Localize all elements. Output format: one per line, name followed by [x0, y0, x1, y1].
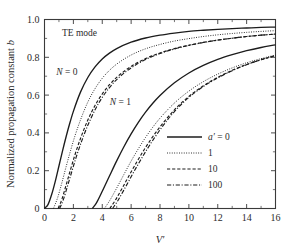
x-tick-label: 12: [213, 212, 223, 223]
x-tick-label: 14: [242, 212, 252, 223]
y-tick-label: 0.8: [27, 52, 40, 63]
chart-canvas: 0246810121416 00.20.40.60.81.0 N = 0N = …: [0, 0, 291, 249]
mode-annotations-group: N = 0N = 1: [55, 67, 131, 107]
legend-label: 1: [208, 148, 213, 158]
curve-n1-solid: [92, 45, 275, 209]
x-tick-label: 4: [100, 212, 105, 223]
y-tick-label: 0.6: [27, 90, 40, 101]
legend-label: 100: [208, 180, 223, 190]
data-curves-group: [45, 27, 276, 208]
x-tick-label: 16: [271, 212, 281, 223]
legend-label: a′ = 0: [208, 132, 230, 142]
y-tick-label: 0.2: [27, 165, 40, 176]
figure-container: 0246810121416 00.20.40.60.81.0 N = 0N = …: [0, 0, 291, 249]
y-axis-title: Normalized propagation constant b: [5, 40, 16, 188]
x-tick-label: 0: [42, 212, 47, 223]
x-tick-label: 6: [129, 212, 134, 223]
curve-n0-dashdot: [60, 34, 276, 208]
y-tick-label: 1.0: [27, 14, 40, 25]
curve-n1-dotted: [104, 55, 275, 208]
x-axis-tick-labels: 0246810121416: [42, 212, 281, 223]
x-tick-label: 10: [184, 212, 194, 223]
x-tick-label: 8: [158, 212, 163, 223]
y-tick-label: 0: [35, 203, 40, 214]
curve-n0-dotted: [53, 31, 275, 209]
mode-label: N = 0: [55, 67, 77, 77]
axis-ticks-group: [45, 20, 276, 209]
x-axis-title: V′: [156, 234, 165, 245]
curve-n0-dashed: [58, 34, 275, 208]
curve-n1-dashed: [110, 56, 276, 209]
curve-n0-solid: [45, 27, 276, 208]
y-axis-tick-labels: 00.20.40.60.81.0: [27, 14, 40, 214]
plot-frame: [45, 20, 276, 209]
legend-label: 10: [208, 164, 218, 174]
legend: a′ = 0110100: [167, 132, 230, 190]
mode-label: N = 1: [109, 97, 131, 107]
te-mode-annotation: TE mode: [62, 28, 97, 38]
y-tick-label: 0.4: [27, 127, 40, 138]
x-tick-label: 2: [71, 212, 76, 223]
